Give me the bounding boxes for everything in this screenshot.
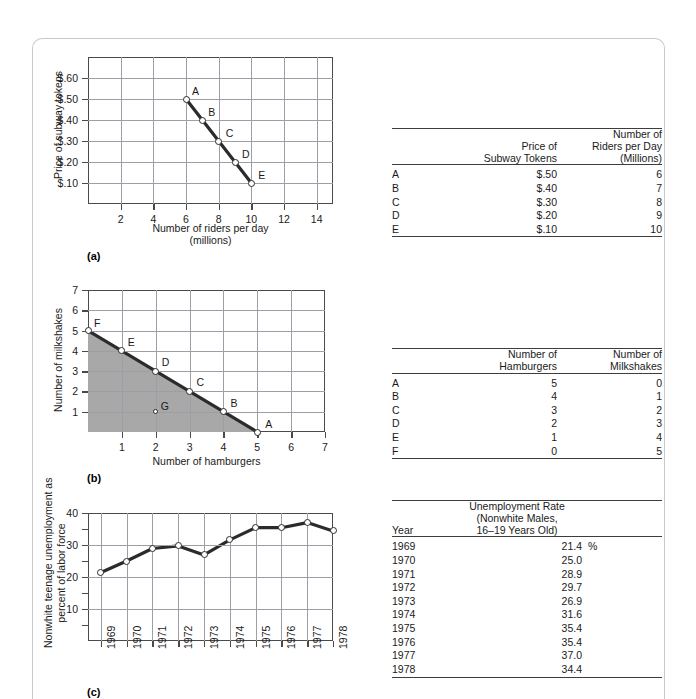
- tick-y: [82, 545, 88, 546]
- table-bottom-rule: [392, 237, 662, 243]
- tick-x: [156, 432, 157, 438]
- table-cell-label: C: [392, 404, 452, 418]
- axis-tick-label-x: 1972: [182, 626, 194, 649]
- axis-tick-label-x: 3: [187, 441, 193, 453]
- table-row: E$.1010: [392, 223, 662, 237]
- chart-c-plot-area: [88, 513, 333, 641]
- table-cell-value-2: 7: [557, 182, 662, 196]
- axis-tick-label-y: 5: [64, 325, 78, 337]
- table-a-header-col2: Number of Riders per Day (Millions): [557, 129, 662, 165]
- table-cell-label: E: [392, 223, 452, 237]
- axis-tick-label-x: 7: [322, 441, 328, 453]
- figure-b-label: (b): [87, 472, 101, 484]
- gridline-horizontal: [88, 99, 333, 100]
- data-point-marker: [123, 558, 130, 565]
- gridline-vertical: [317, 57, 318, 204]
- data-point-label: C: [197, 376, 205, 388]
- table-cell-label: A: [392, 373, 452, 390]
- tick-x: [152, 641, 153, 647]
- data-point-label: D: [162, 356, 170, 368]
- table-cell-value-1: 0: [452, 445, 557, 459]
- axis-tick-label-x: 1969: [105, 626, 117, 649]
- table-row: A$.506: [392, 165, 662, 182]
- tick-y-minor: [82, 625, 88, 626]
- table-cell-value-2: [582, 622, 662, 636]
- tick-y-minor: [82, 529, 88, 530]
- axis-tick-label-y: 7: [64, 284, 78, 296]
- table-c-header-row: Year Unemployment Rate (Nonwhite Males, …: [392, 501, 662, 537]
- table-cell-value-2: 6: [557, 165, 662, 182]
- table-subway-tokens: Price of Subway Tokens Number of Riders …: [392, 128, 662, 242]
- data-point-marker: [254, 429, 261, 436]
- table-b-header-row: Number of Hamburgers Number of Milkshake…: [392, 349, 662, 374]
- tick-x: [219, 204, 220, 210]
- figure-c: Nonwhite teenage unemployment as percent…: [0, 500, 340, 694]
- tick-x: [190, 432, 191, 438]
- gridline-vertical: [122, 290, 123, 432]
- tick-y-minor: [82, 593, 88, 594]
- gridline-vertical: [256, 513, 257, 641]
- tick-y: [82, 183, 88, 184]
- axis-tick-label-x: 1977: [311, 626, 323, 649]
- gridline-vertical: [127, 513, 128, 641]
- table-cell-value-1: 37.0: [452, 649, 582, 663]
- axis-tick-label-y: 6: [64, 304, 78, 316]
- table-c-body: 196921.4%197025.0197128.9197229.7197326.…: [392, 537, 662, 683]
- gridline-vertical: [153, 57, 154, 204]
- table-row: D23: [392, 417, 662, 431]
- axis-tick-label-x: 14: [311, 213, 323, 225]
- axis-tick-label-y: 30: [62, 539, 78, 551]
- table-cell-value-2: [582, 649, 662, 663]
- axis-tick-label-y: $.50: [40, 93, 78, 105]
- data-point-label: E: [128, 336, 135, 348]
- gridline-horizontal: [88, 141, 333, 142]
- data-point-label: B: [208, 106, 215, 118]
- table-a-header-rowlabel: [392, 129, 452, 165]
- axis-tick-label-x: 1971: [156, 626, 168, 649]
- gridline-vertical: [204, 513, 205, 641]
- axis-tick-label-x: 4: [150, 213, 156, 225]
- axis-tick-label-x: 6: [183, 213, 189, 225]
- data-point-marker: [199, 117, 206, 124]
- table-cell-value-2: 4: [557, 431, 662, 445]
- table-b-header-col1-line1: Number of: [452, 349, 557, 361]
- tick-y: [82, 141, 88, 142]
- gridline-horizontal: [88, 162, 333, 163]
- table-cell-value-2: 0: [557, 373, 662, 390]
- chart-b-line-layer: [88, 290, 325, 432]
- table-row: 197737.0: [392, 649, 662, 663]
- table-cell-value-1: 26.9: [452, 595, 582, 609]
- axis-tick-label-y: 1: [64, 406, 78, 418]
- table-b-body: A50B41C32D23E14F05: [392, 373, 662, 464]
- axis-tick-label-y: $.60: [40, 72, 78, 84]
- table-a-header-col1-line2: Subway Tokens: [452, 153, 557, 165]
- table-cell-label: A: [392, 165, 452, 182]
- tick-x: [256, 641, 257, 647]
- table-cell-value-2: 8: [557, 196, 662, 210]
- tick-x: [251, 204, 252, 210]
- data-point-marker: [232, 159, 239, 166]
- data-point-marker: [186, 388, 193, 395]
- data-point-label: E: [258, 169, 265, 181]
- table-bottom-rule: [392, 459, 662, 465]
- chart-b-plot-area: FEDCBAG: [88, 290, 325, 432]
- tick-y: [82, 412, 88, 413]
- gridline-horizontal: [88, 577, 333, 578]
- gridline-horizontal: [88, 78, 333, 79]
- table-cell-label: 1977: [392, 649, 452, 663]
- table-b-header-col1-line2: Hamburgers: [452, 361, 557, 373]
- table-cell-value-2: [582, 581, 662, 595]
- chart-c-y-axis-title-line1: Nonwhite teenage unemployment as: [42, 498, 54, 648]
- chart-a-x-axis-subtitle: (millions): [88, 234, 333, 246]
- table-row: 197535.4: [392, 622, 662, 636]
- tick-x: [127, 641, 128, 647]
- gridline-horizontal: [88, 120, 333, 121]
- figure-a: Price of subway tokens ABCDE Number of r…: [0, 0, 340, 260]
- axis-tick-label-x: 1973: [208, 626, 220, 649]
- tick-x: [317, 204, 318, 210]
- table-c-header-rowlabel: Year: [392, 501, 452, 537]
- axis-tick-label-y: $.20: [40, 156, 78, 168]
- table-row: C32: [392, 404, 662, 418]
- table-b-header-col1: Number of Hamburgers: [452, 349, 557, 374]
- table-cell-value-2: [582, 568, 662, 582]
